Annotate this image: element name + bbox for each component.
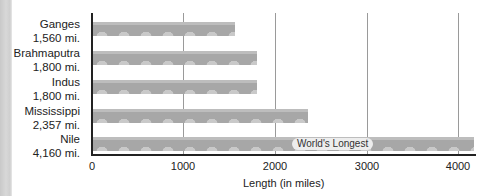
bar-nile: World's Longest bbox=[93, 137, 474, 151]
category-label-nile: Nile 4,160 mi. bbox=[0, 132, 80, 160]
river-name: Ganges bbox=[0, 17, 80, 31]
river-length: 4,160 mi. bbox=[0, 146, 80, 160]
category-label-mississippi: Mississippi 2,357 mi. bbox=[0, 104, 80, 132]
bar-brahmaputra bbox=[93, 51, 257, 65]
bar-mississippi bbox=[93, 109, 308, 123]
gridline-2000 bbox=[275, 13, 276, 155]
world-longest-annotation: World's Longest bbox=[292, 138, 373, 150]
river-name: Mississippi bbox=[0, 104, 80, 118]
bar-indus bbox=[93, 80, 257, 94]
x-tick-2000: 2000 bbox=[263, 160, 287, 172]
river-length: 1,560 mi. bbox=[0, 31, 80, 45]
gridline-3000 bbox=[367, 13, 368, 155]
x-tick-3000: 3000 bbox=[355, 160, 379, 172]
river-name: Brahmaputra bbox=[0, 46, 80, 60]
category-label-indus: Indus 1,800 mi. bbox=[0, 75, 80, 103]
river-name: Nile bbox=[0, 132, 80, 146]
river-length: 1,800 mi. bbox=[0, 89, 80, 103]
plot-area: World's Longest bbox=[91, 13, 476, 155]
y-axis-line bbox=[91, 13, 93, 156]
river-length: 2,357 mi. bbox=[0, 118, 80, 132]
x-axis-line bbox=[91, 154, 476, 156]
river-length: 1,800 mi. bbox=[0, 60, 80, 74]
river-name: Indus bbox=[0, 75, 80, 89]
gridline-4000 bbox=[458, 13, 459, 155]
x-tick-1000: 1000 bbox=[171, 160, 195, 172]
category-label-ganges: Ganges 1,560 mi. bbox=[0, 17, 80, 45]
x-tick-4000: 4000 bbox=[446, 160, 470, 172]
bar-ganges bbox=[93, 22, 235, 36]
x-tick-0: 0 bbox=[89, 160, 95, 172]
category-label-brahmaputra: Brahmaputra 1,800 mi. bbox=[0, 46, 80, 74]
x-axis-title: Length (in miles) bbox=[243, 177, 324, 189]
